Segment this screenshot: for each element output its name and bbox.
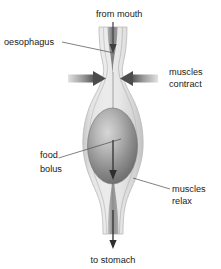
diagram-canvas: from mouth oesophagus muscles contract f… [0,0,221,269]
contract-arrow-left-shaft [68,75,95,83]
label-food-bolus-line2: bolus [40,164,62,174]
label-from-mouth: from mouth [96,9,142,19]
label-muscles-contract-line1: muscles [169,67,203,77]
label-muscles-relax-line1: muscles [172,184,206,194]
label-to-stomach: to stomach [91,255,136,265]
contract-arrow-right-shaft [131,75,158,83]
label-muscles-contract-line2: contract [169,79,202,89]
leader-muscles-relax [133,178,170,189]
flow-arrow-bottom-head [109,240,116,249]
label-muscles-relax-line2: relax [172,196,192,206]
label-oesophagus: oesophagus [4,37,54,47]
label-food-bolus-line1: food [40,150,58,160]
